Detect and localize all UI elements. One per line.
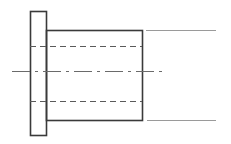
- technical-drawing-canvas: [0, 0, 231, 144]
- body-rectangle: [47, 31, 143, 121]
- flange-rectangle: [31, 12, 47, 136]
- engineering-drawing-svg: [0, 0, 231, 144]
